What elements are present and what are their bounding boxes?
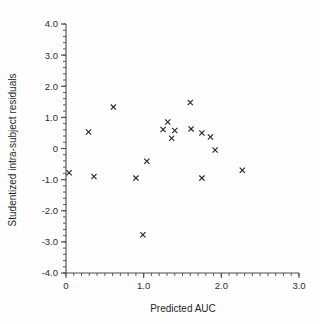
data-point-marker xyxy=(140,232,145,237)
y-tick-label: -2.0 xyxy=(42,205,58,216)
data-point-marker xyxy=(208,134,213,139)
data-point-marker xyxy=(213,147,218,152)
data-point-marker xyxy=(199,130,204,135)
x-axis-title: Predicted AUC xyxy=(150,303,216,314)
y-axis-title: Studentized intra-subject residuals xyxy=(7,74,18,227)
data-point-marker xyxy=(160,127,165,132)
data-point-marker xyxy=(199,175,204,180)
y-tick-label: -3.0 xyxy=(42,236,58,247)
data-point-marker xyxy=(111,105,116,110)
data-points xyxy=(67,100,245,237)
scatter-plot-figure: -4.0-3.0-2.0-1.001.02.03.04.0 01.02.03.0… xyxy=(0,0,320,324)
x-tick-label: 0 xyxy=(63,280,68,291)
x-axis: 01.02.03.0 xyxy=(63,273,305,291)
y-tick-label: 1.0 xyxy=(45,112,58,123)
data-point-marker xyxy=(133,175,138,180)
plot-canvas: -4.0-3.0-2.0-1.001.02.03.04.0 01.02.03.0… xyxy=(0,0,320,324)
data-point-marker xyxy=(188,126,193,131)
x-tick-label: 3.0 xyxy=(292,280,305,291)
y-tick-label: -4.0 xyxy=(42,267,58,278)
data-point-marker xyxy=(165,119,170,124)
y-tick-label: 2.0 xyxy=(45,81,58,92)
data-point-marker xyxy=(240,168,245,173)
y-tick-label: 4.0 xyxy=(45,18,58,29)
data-point-marker xyxy=(86,129,91,134)
data-point-marker xyxy=(172,128,177,133)
x-tick-label: 2.0 xyxy=(215,280,228,291)
data-point-marker xyxy=(188,100,193,105)
x-tick-label: 1.0 xyxy=(137,280,150,291)
data-point-marker xyxy=(144,159,149,164)
data-point-marker xyxy=(91,174,96,179)
y-axis: -4.0-3.0-2.0-1.001.02.03.04.0 xyxy=(42,18,66,278)
y-tick-label: 0 xyxy=(53,143,58,154)
y-tick-label: 3.0 xyxy=(45,50,58,61)
data-point-marker xyxy=(67,170,72,175)
data-point-marker xyxy=(169,136,174,141)
y-tick-label: -1.0 xyxy=(42,174,58,185)
